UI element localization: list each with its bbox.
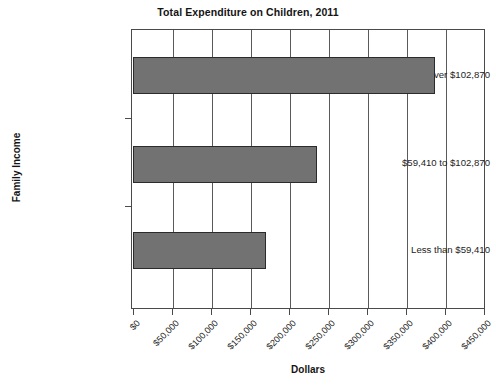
chart-figure: Total Expenditure on Children, 2011 Fami… [0,0,496,386]
y-axis-category-label: $59,410 to $102,870 [371,157,496,168]
x-axis-tick [211,309,212,315]
x-axis-tick [133,309,134,315]
x-axis-tick [250,309,251,315]
bar [133,57,435,94]
chart-title: Total Expenditure on Children, 2011 [0,6,496,18]
x-axis-tick [328,309,329,315]
x-axis-title: Dollars [131,364,485,375]
x-axis-tick [289,309,290,315]
y-axis-tick [125,118,132,119]
x-axis-tick [445,309,446,315]
x-axis-tick [367,309,368,315]
bar [133,232,266,269]
x-axis-tick [484,309,485,315]
y-axis-tick [125,206,132,207]
y-axis-category-label: Less than $59,410 [371,244,496,255]
y-axis-title: Family Income [11,108,22,228]
bar [133,146,317,183]
x-axis-tick [406,309,407,315]
x-axis-tick [172,309,173,315]
